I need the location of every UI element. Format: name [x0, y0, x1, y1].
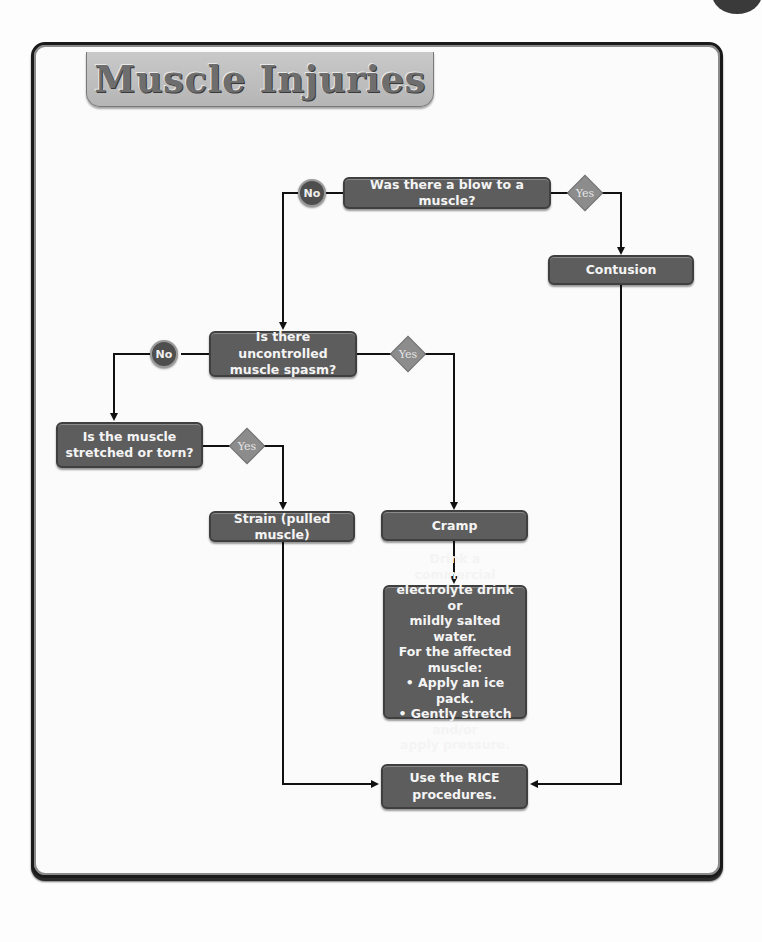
yes-label: Yes — [230, 429, 264, 463]
no-label: No — [156, 348, 173, 361]
no-label: No — [304, 187, 321, 200]
q1-no-branch: No — [298, 179, 326, 207]
question-text-line1: Is there uncontrolled — [217, 329, 349, 362]
care-line: Drink a commercial — [391, 551, 519, 582]
result-rice-procedures: Use the RICE procedures. — [381, 764, 528, 809]
care-line: mildly salted water. — [391, 613, 519, 644]
result-strain: Strain (pulled muscle) — [209, 511, 355, 542]
q1-yes-branch: Yes — [568, 176, 602, 210]
rice-text-line1: Use the RICE — [409, 770, 499, 787]
care-bullet-cont: apply pressure. — [400, 737, 510, 753]
result-cramp: Cramp — [381, 510, 528, 541]
question-text: Was there a blow to a muscle? — [345, 177, 549, 209]
yes-label: Yes — [391, 337, 425, 371]
question-text-line2: muscle spasm? — [230, 362, 336, 379]
care-line: electrolyte drink or — [391, 582, 519, 613]
cramp-care-instructions: Drink a commercial electrolyte drink or … — [383, 585, 527, 719]
yes-label: Yes — [568, 176, 602, 210]
q3-yes-branch: Yes — [230, 429, 264, 463]
question-blow-to-muscle: Was there a blow to a muscle? — [343, 177, 551, 209]
rice-text-line2: procedures. — [412, 787, 496, 804]
question-text-line1: Is the muscle — [83, 429, 177, 446]
care-bullet: • Gently stretch and/or — [391, 706, 519, 737]
result-text: Cramp — [432, 518, 478, 534]
q2-no-branch: No — [150, 340, 178, 368]
q2-yes-branch: Yes — [391, 337, 425, 371]
result-text: Contusion — [586, 262, 657, 278]
result-contusion: Contusion — [548, 255, 694, 285]
question-stretched-or-torn: Is the muscle stretched or torn? — [56, 422, 203, 468]
care-line: For the affected — [399, 644, 512, 660]
care-bullet: • Apply an ice pack. — [391, 675, 519, 706]
question-text-line2: stretched or torn? — [65, 445, 193, 462]
question-uncontrolled-spasm: Is there uncontrolled muscle spasm? — [209, 331, 357, 377]
result-text: Strain (pulled muscle) — [211, 511, 353, 543]
care-line: muscle: — [428, 660, 483, 676]
